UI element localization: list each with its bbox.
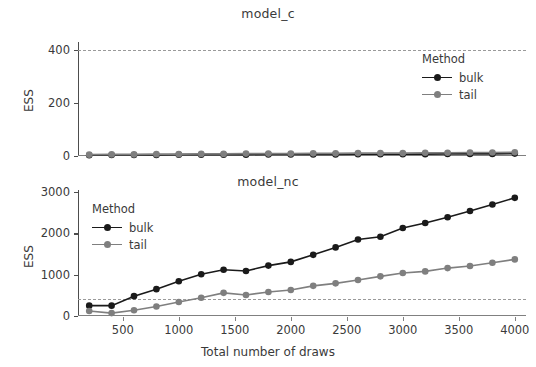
data-point-tail	[198, 151, 205, 158]
x-tickmark-2500	[347, 317, 348, 321]
data-point-tail	[198, 295, 205, 302]
data-point-tail	[444, 265, 451, 272]
x-tickmark-4000	[515, 317, 516, 321]
data-point-tail	[467, 263, 474, 270]
x-tickmark-1000	[179, 317, 180, 321]
y-tick-3000: 3000	[41, 185, 70, 199]
data-point-bulk	[422, 220, 429, 227]
y-tickmark-0	[74, 316, 78, 317]
x-tick-3500: 3500	[444, 323, 473, 337]
data-point-tail	[86, 151, 93, 158]
legend-marker-bulk-top	[422, 72, 452, 84]
data-point-bulk	[108, 302, 115, 309]
data-point-bulk	[220, 266, 227, 273]
y-tick-0: 0	[63, 309, 70, 323]
legend-label-bulk-top: bulk	[459, 71, 483, 85]
data-point-tail	[310, 283, 317, 290]
legend-label-tail-bottom: tail	[129, 238, 147, 252]
data-point-bulk	[355, 236, 362, 243]
data-point-tail	[288, 287, 295, 294]
x-tick-2000: 2000	[276, 323, 305, 337]
data-point-tail	[512, 256, 519, 263]
data-point-tail	[467, 149, 474, 156]
x-axis-label: Total number of draws	[0, 345, 536, 359]
data-point-bulk	[377, 233, 384, 240]
x-tickmark-3000	[403, 317, 404, 321]
data-point-tail	[243, 292, 250, 299]
data-point-bulk	[332, 244, 339, 251]
data-point-tail	[176, 151, 183, 158]
legend-marker-tail-bottom	[92, 239, 122, 251]
legend-title-bottom: Method	[92, 202, 153, 216]
data-point-tail	[243, 150, 250, 157]
x-tick-500: 500	[112, 323, 134, 337]
panel-model-c: model_c ESS 0200400 Method bulk	[0, 0, 536, 170]
legend-marker-tail-top	[422, 89, 452, 101]
y-tick-1000: 1000	[41, 268, 70, 282]
y-tickmark-2000	[74, 233, 78, 234]
data-point-tail	[153, 151, 160, 158]
data-point-bulk	[444, 214, 451, 221]
legend-marker-bulk-bottom	[92, 222, 122, 234]
data-point-bulk	[489, 201, 496, 208]
x-tick-4000: 4000	[500, 323, 529, 337]
data-point-tail	[131, 151, 138, 158]
data-point-tail	[355, 277, 362, 284]
data-point-bulk	[176, 278, 183, 285]
data-point-tail	[512, 149, 519, 156]
data-point-tail	[131, 307, 138, 314]
data-point-tail	[265, 289, 272, 296]
data-point-tail	[220, 290, 227, 297]
data-point-tail	[108, 151, 115, 158]
data-point-bulk	[400, 225, 407, 232]
data-point-tail	[288, 150, 295, 157]
data-point-tail	[377, 273, 384, 280]
data-point-bulk	[153, 286, 160, 293]
y-tickmark-1000	[74, 275, 78, 276]
x-tick-2500: 2500	[332, 323, 361, 337]
legend-label-bulk-bottom: bulk	[129, 221, 153, 235]
legend-model-c: Method bulk tail	[422, 52, 483, 103]
data-point-bulk	[467, 208, 474, 215]
y-tickmark-400	[74, 50, 78, 51]
data-point-tail	[176, 299, 183, 306]
x-tickmark-1500	[235, 317, 236, 321]
x-tickmark-2000	[291, 317, 292, 321]
legend-item-tail-bottom: tail	[92, 236, 153, 253]
legend-item-tail-top: tail	[422, 86, 483, 103]
line-tail	[89, 259, 515, 313]
data-point-tail	[220, 151, 227, 158]
legend-label-tail-top: tail	[459, 88, 477, 102]
panel-title-model-c: model_c	[0, 6, 536, 21]
y-tick-2000: 2000	[41, 226, 70, 240]
data-point-tail	[422, 150, 429, 157]
y-tickmark-3000	[74, 192, 78, 193]
y-tickmark-0	[74, 156, 78, 157]
data-point-bulk	[243, 268, 250, 275]
data-point-tail	[422, 268, 429, 275]
x-tickmark-500	[123, 317, 124, 321]
x-tick-3000: 3000	[388, 323, 417, 337]
data-point-bulk	[310, 252, 317, 259]
x-tick-1500: 1500	[220, 323, 249, 337]
data-point-bulk	[131, 293, 138, 300]
x-tick-1000: 1000	[164, 323, 193, 337]
data-point-tail	[400, 150, 407, 157]
data-point-tail	[108, 310, 115, 317]
data-point-tail	[310, 150, 317, 157]
y-axis-label-bottom: ESS	[22, 245, 36, 268]
data-point-bulk	[198, 271, 205, 278]
data-point-tail	[355, 150, 362, 157]
panel-title-model-nc: model_nc	[0, 174, 536, 189]
data-point-bulk	[265, 262, 272, 269]
legend-model-nc: Method bulk tail	[92, 202, 153, 253]
data-point-bulk	[512, 195, 519, 202]
data-point-tail	[377, 150, 384, 157]
data-point-tail	[332, 150, 339, 157]
legend-title-top: Method	[422, 52, 483, 66]
figure: model_c ESS 0200400 Method bulk	[0, 0, 536, 367]
y-tick-0: 0	[63, 149, 70, 163]
data-point-tail	[489, 259, 496, 266]
y-tick-400: 400	[48, 43, 70, 57]
legend-item-bulk-bottom: bulk	[92, 219, 153, 236]
